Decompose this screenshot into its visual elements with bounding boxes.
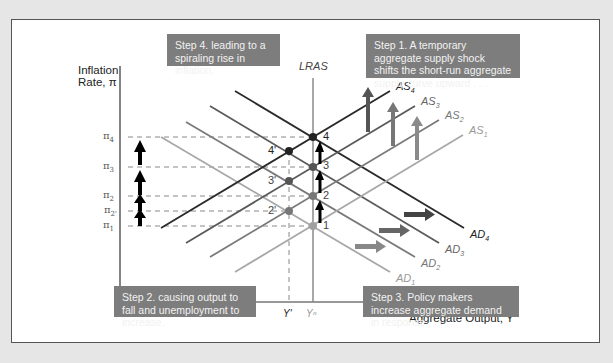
step3-box: Step 3. Policy makers increase aggregate… <box>363 286 519 317</box>
point-3-prime <box>285 177 293 185</box>
y-natural-tick: Yⁿ <box>306 308 316 319</box>
point-3 <box>309 163 317 171</box>
as3-curve <box>186 106 415 243</box>
pi-up-arrows <box>134 140 146 226</box>
as2-label: AS2 <box>445 109 464 123</box>
ad1-label: AD1 <box>396 272 415 286</box>
y-prime-tick: Y' <box>283 308 292 319</box>
y-axis-label-line2: Rate, π <box>78 76 114 88</box>
point-4 <box>309 133 317 141</box>
pi3-tick: π3 <box>92 160 114 174</box>
point-2-prime-label: 2' <box>268 204 276 216</box>
y-axis-label-line1: Inflation <box>78 64 114 76</box>
step2-box: Step 2. causing output to fall and unemp… <box>114 286 256 317</box>
step1-box: Step 1. A temporary aggregate supply sho… <box>366 34 520 78</box>
pi1-tick: π1 <box>92 219 114 233</box>
ad3-label: AD3 <box>445 243 464 257</box>
pi4-tick: π4 <box>92 130 114 144</box>
ad4-label: AD4 <box>470 228 489 242</box>
ad2-curve <box>186 122 415 257</box>
pi2-tick: π2 <box>92 189 114 203</box>
pi-guides <box>128 137 313 302</box>
as-shift-arrows <box>362 87 423 160</box>
point-2-label: 2 <box>323 189 329 201</box>
y-axis-label: Inflation Rate, π <box>78 64 114 88</box>
point-4-prime <box>285 147 293 155</box>
point-1-label: 1 <box>323 219 329 231</box>
ad2-label: AD2 <box>421 257 440 271</box>
as1-label: AS1 <box>469 124 488 138</box>
point-2 <box>309 192 317 200</box>
as3-label: AS3 <box>421 95 440 109</box>
pi2-prime-tick: π2' <box>95 204 117 218</box>
point-1 <box>309 222 317 230</box>
lras-up-arrows <box>315 141 324 223</box>
step4-box: Step 4. leading to a spiraling rise in i… <box>167 34 280 66</box>
point-3-label: 3 <box>323 159 329 171</box>
lras-label: LRAS <box>299 60 328 72</box>
point-4-prime-label: 4' <box>268 144 276 156</box>
point-3-prime-label: 3' <box>268 174 276 186</box>
point-2-prime <box>285 207 293 215</box>
point-4-label: 4 <box>323 130 329 142</box>
